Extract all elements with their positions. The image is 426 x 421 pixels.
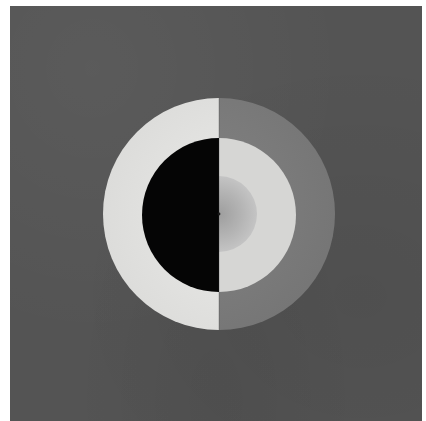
painting-ground <box>10 6 422 421</box>
concentric-circles-artwork <box>10 6 422 421</box>
center-dot <box>218 213 221 216</box>
